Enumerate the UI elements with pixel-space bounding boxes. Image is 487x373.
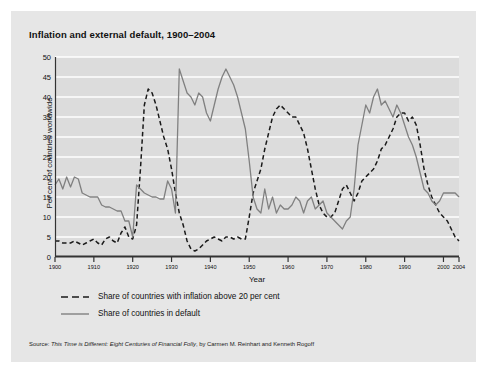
x-tick-label: 1960 [282,264,294,270]
series-line-2 [55,69,459,237]
x-tick-label: 1930 [165,264,177,270]
y-tick-label: 15 [43,193,51,202]
x-tick-label: 2004 [453,264,465,270]
x-tick-label: 1900 [49,264,61,270]
x-tick-label: 2000 [437,264,449,270]
source-authors: , by Carmen M. Reinhart and Kenneth Rogo… [196,341,314,347]
x-tick-label: 1990 [398,264,410,270]
y-tick-label: 45 [43,73,51,82]
x-tick-label: 1920 [126,264,138,270]
legend-swatch-dashed [61,292,89,302]
plot-svg [55,57,459,257]
legend-label: Share of countries with inflation above … [98,292,280,301]
chart-card: Inflation and external default, 1900–200… [11,11,476,362]
source-prefix: Source: [29,341,51,347]
legend-item-1: Share of countries with inflation above … [61,288,441,305]
y-tick-label: 5 [47,233,51,242]
legend-label: Share of countries in default [98,309,200,318]
y-tick-label: 50 [43,53,51,62]
x-tick-label: 1980 [360,264,372,270]
x-axis-label: Year [249,275,265,284]
x-tick-label: 1910 [88,264,100,270]
x-tick-label: 1950 [243,264,255,270]
legend-item-2: Share of countries in default [61,305,441,322]
y-tick-label: 0 [47,253,51,262]
legend-swatch-solid [61,309,89,319]
x-tick-label: 1970 [321,264,333,270]
plot-area: Per cent of countries worldwide 05101520… [55,57,459,257]
source-work-title: This Time is Different: Eight Centuries … [51,341,196,347]
y-tick-label: 40 [43,93,51,102]
chart-title: Inflation and external default, 1900–200… [29,29,215,40]
y-tick-label: 10 [43,213,51,222]
chart-legend: Share of countries with inflation above … [61,288,441,322]
y-tick-label: 35 [43,113,51,122]
source-note: Source: This Time is Different: Eight Ce… [29,341,314,347]
y-tick-label: 20 [43,173,51,182]
series-line-1 [55,89,459,251]
y-tick-label: 30 [43,133,51,142]
y-tick-label: 25 [43,153,51,162]
x-tick-label: 1940 [204,264,216,270]
